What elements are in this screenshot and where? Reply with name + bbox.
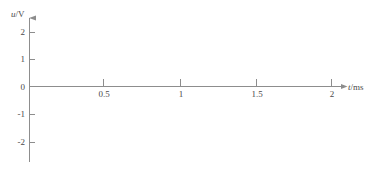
y-tick-label-1: 1	[6, 55, 25, 64]
coordinate-axes-figure: u/V t/ms 2 1 0 -1 -2 0.5 1 1.5 2	[0, 0, 375, 172]
x-axis-ticks	[104, 79, 332, 87]
x-tick-label-1: 1	[169, 90, 193, 99]
y-tick-label-0: 0	[6, 83, 25, 92]
y-tick-label-2: 2	[6, 28, 25, 37]
x-axis-unit: ms	[353, 82, 364, 92]
y-axis-title: u/V	[11, 10, 25, 19]
axes-drawing	[0, 0, 375, 172]
x-tick-label-2: 2	[320, 90, 344, 99]
y-axis-unit: V	[18, 9, 25, 19]
y-tick-label-neg2: -2	[2, 138, 25, 147]
y-axis-ticks	[30, 33, 36, 143]
x-axis-title: t/ms	[348, 83, 364, 92]
x-tick-label-1-5: 1.5	[245, 90, 269, 99]
x-tick-label-0-5: 0.5	[92, 90, 116, 99]
y-tick-label-neg1: -1	[2, 110, 25, 119]
